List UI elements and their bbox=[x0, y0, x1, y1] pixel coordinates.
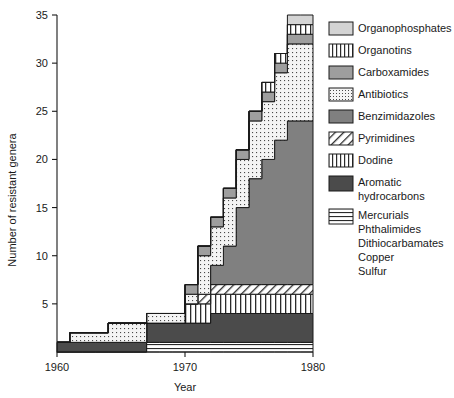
y-tick-label: 25 bbox=[36, 105, 48, 117]
legend-item-benzimidazoles[interactable]: Benzimidazoles bbox=[329, 110, 436, 123]
legend-label: Sulfur bbox=[358, 265, 387, 277]
legend-label: Carboxamides bbox=[358, 66, 429, 78]
y-tick-label: 35 bbox=[36, 9, 48, 21]
legend-swatch bbox=[329, 110, 353, 123]
x-axis-title: Year bbox=[174, 381, 197, 393]
y-tick-label: 15 bbox=[36, 202, 48, 214]
legend-label: Organotins bbox=[358, 44, 412, 56]
resistant-genera-stacked-area-chart: 5101520253035196019701980 Organophosphat… bbox=[0, 0, 454, 398]
x-tick-label: 1980 bbox=[301, 361, 325, 373]
legend-swatch bbox=[329, 132, 353, 145]
legend-item-antibiotics[interactable]: Antibiotics bbox=[329, 88, 409, 101]
legend-label: Dithiocarbamates bbox=[358, 237, 444, 249]
legend-swatch bbox=[329, 44, 353, 57]
y-tick-label: 30 bbox=[36, 57, 48, 69]
legend-item-carboxamides[interactable]: Carboxamides bbox=[329, 66, 429, 79]
legend-label: Pyrimidines bbox=[358, 132, 415, 144]
x-tick-label: 1960 bbox=[45, 361, 69, 373]
legend-swatch bbox=[329, 176, 353, 191]
legend-label: hydrocarbons bbox=[358, 190, 425, 202]
y-axis-title: Number of resistant genera bbox=[6, 132, 18, 266]
legend-label: Benzimidazoles bbox=[358, 110, 436, 122]
legend-label: Mercurials bbox=[358, 209, 409, 221]
legend-label: Phthalimides bbox=[358, 223, 421, 235]
legend-item-dodine[interactable]: Dodine bbox=[329, 154, 393, 167]
y-tick-label: 20 bbox=[36, 153, 48, 165]
chart-figure: 5101520253035196019701980 Organophosphat… bbox=[0, 0, 454, 398]
legend-swatch bbox=[329, 88, 353, 101]
y-tick-label: 5 bbox=[42, 298, 48, 310]
legend-item-pyrimidines[interactable]: Pyrimidines bbox=[329, 132, 415, 145]
legend-label: Antibiotics bbox=[358, 88, 409, 100]
legend-swatch bbox=[329, 209, 353, 224]
y-tick-label: 10 bbox=[36, 250, 48, 262]
legend-label: Aromatic bbox=[358, 176, 402, 188]
legend-swatch bbox=[329, 22, 353, 35]
legend-swatch bbox=[329, 66, 353, 79]
legend-item-organotins[interactable]: Organotins bbox=[329, 44, 412, 57]
legend-label: Copper bbox=[358, 251, 394, 263]
legend-label: Organophosphates bbox=[358, 22, 452, 34]
legend-swatch bbox=[329, 154, 353, 167]
legend-label: Dodine bbox=[358, 154, 393, 166]
x-tick-label: 1970 bbox=[173, 361, 197, 373]
legend-item-organophosphates[interactable]: Organophosphates bbox=[329, 22, 452, 35]
